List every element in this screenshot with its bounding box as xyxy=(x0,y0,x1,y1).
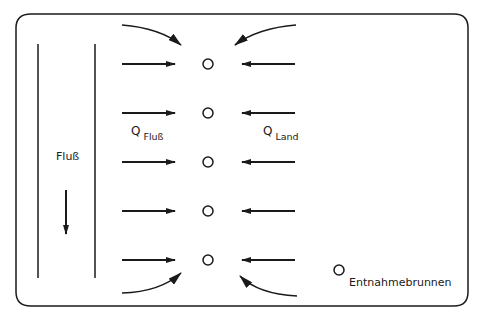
legend-well-icon xyxy=(334,265,344,275)
q-river-label: QFluß xyxy=(131,124,164,138)
curved-arrow-icon xyxy=(122,25,181,45)
well-icon xyxy=(203,59,213,69)
q-land-label: QLand xyxy=(263,124,299,138)
legend-label: Entnahmebrunnen xyxy=(349,276,452,289)
q-river-symbol: Q xyxy=(131,124,140,138)
river-inflow-arrows xyxy=(122,64,175,260)
well-icon xyxy=(203,157,213,167)
well-icon xyxy=(203,206,213,216)
wells xyxy=(203,59,213,265)
well-icon xyxy=(203,108,213,118)
diagram-frame xyxy=(16,14,468,306)
well-icon xyxy=(203,255,213,265)
q-land-subscript: Land xyxy=(275,131,298,142)
q-river-subscript: Fluß xyxy=(143,131,163,142)
curved-arrow-icon xyxy=(122,273,181,293)
q-land-symbol: Q xyxy=(263,124,272,138)
curved-arrow-icon xyxy=(235,25,296,45)
river-label: Fluß xyxy=(56,150,79,163)
curved-arrow-icon xyxy=(240,276,297,296)
land-inflow-arrows xyxy=(242,64,295,260)
